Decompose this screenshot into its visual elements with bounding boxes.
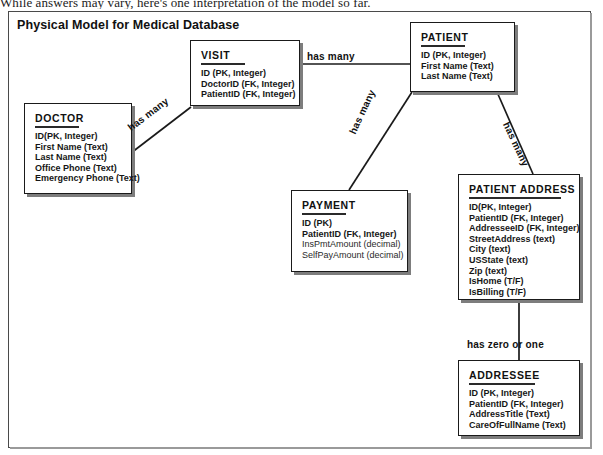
entity-field: AddresseeID (FK, Integer) [469, 223, 570, 234]
entity-visit[interactable]: VISIT ID (PK, Integer) DoctorID (FK, Int… [190, 40, 300, 106]
entity-field: PatientID (FK, Integer) [201, 89, 290, 100]
entity-field: PatientID (FK, Integer) [302, 229, 398, 240]
entity-field: CareOfFullName (Text) [469, 420, 570, 431]
entity-field: City (text) [469, 244, 570, 255]
diagram-title: Physical Model for Medical Database [17, 18, 239, 32]
entity-divider [201, 63, 245, 65]
entity-divider [35, 126, 79, 128]
entity-field: ID (PK, Integer) [421, 50, 505, 61]
entity-field: SelfPayAmount (decimal) [302, 250, 398, 261]
entity-field: Last Name (Text) [35, 152, 122, 163]
caption-above-figure: While answers may vary, here's one inter… [0, 0, 603, 9]
entity-doctor[interactable]: DOCTOR ID(PK, Integer) First Name (Text)… [24, 103, 132, 194]
entity-field: PatientID (FK, Integer) [469, 213, 570, 224]
entity-addressee[interactable]: ADDRESSEE ID (PK, Integer) PatientID (FK… [458, 360, 580, 436]
entity-field: ID (PK, Integer) [469, 388, 570, 399]
entity-field: Last Name (Text) [421, 71, 505, 82]
entity-field: Office Phone (Text) [35, 163, 122, 174]
entity-name: PATIENT [421, 31, 505, 43]
entity-field: IsHome (T/F) [469, 276, 570, 287]
entity-divider [421, 45, 465, 47]
entity-field: AddressTitle (Text) [469, 409, 570, 420]
entity-field: ID(PK, Integer) [35, 131, 122, 142]
relationship-label-visit-patient: has many [307, 51, 355, 62]
entity-field: InsPmtAmount (decimal) [302, 239, 398, 250]
entity-patient[interactable]: PATIENT ID (PK, Integer) First Name (Tex… [410, 22, 515, 92]
entity-field: Emergency Phone (Text) [35, 173, 122, 184]
entity-field: First Name (Text) [35, 142, 122, 153]
entity-divider [469, 197, 561, 199]
entity-field: Zip (text) [469, 266, 570, 277]
entity-field: ID (PK, Integer) [201, 68, 290, 79]
entity-field: First Name (Text) [421, 61, 505, 72]
entity-name: VISIT [201, 49, 290, 61]
entity-name: PATIENT ADDRESS [469, 183, 570, 195]
entity-name: DOCTOR [35, 112, 122, 124]
entity-divider [302, 213, 346, 215]
relationship-label-patientaddress-addressee: has zero or one [467, 339, 544, 350]
entity-divider [469, 383, 535, 385]
entity-field: PatientID (FK, Integer) [469, 399, 570, 410]
entity-field: StreetAddress (text) [469, 234, 570, 245]
entity-field: ID(PK, Integer) [469, 202, 570, 213]
entity-field: DoctorID (FK, Integer) [201, 79, 290, 90]
entity-field: USState (text) [469, 255, 570, 266]
entity-payment[interactable]: PAYMENT ID (PK) PatientID (FK, Integer) … [291, 190, 408, 272]
entity-field: IsBilling (T/F) [469, 287, 570, 298]
entity-name: PAYMENT [302, 199, 398, 211]
entity-name: ADDRESSEE [469, 369, 570, 381]
entity-field: ID (PK) [302, 218, 398, 229]
entity-patient-address[interactable]: PATIENT ADDRESS ID(PK, Integer) PatientI… [458, 174, 580, 300]
